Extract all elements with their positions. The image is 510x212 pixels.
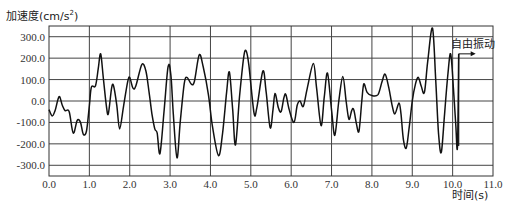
x-tick-label: 2.0 [123, 178, 137, 190]
x-tick-label: 4.0 [204, 178, 218, 190]
y-tick-label: 300.0 [20, 31, 45, 43]
y-axis-ticks: 300.0200.0100.00.0-100.0-200.0-300.0 [17, 31, 46, 172]
y-tick-label: -300.0 [17, 159, 46, 171]
x-tick-label: 1.0 [82, 178, 96, 190]
x-tick-label: 7.0 [325, 178, 339, 190]
x-tick-label: 3.0 [163, 178, 177, 190]
x-tick-label: 0.0 [42, 178, 56, 190]
x-axis-title: 时间(s) [452, 189, 488, 202]
x-tick-label: 5.0 [244, 178, 258, 190]
y-axis-title-main: 加速度(cm/s [6, 9, 70, 23]
y-tick-label: -100.0 [17, 116, 46, 128]
acceleration-series-line [49, 28, 459, 158]
y-tick-label: 200.0 [20, 52, 45, 64]
arrow-head-icon [471, 51, 476, 56]
y-tick-label: -200.0 [17, 138, 46, 150]
y-tick-label: 0.0 [31, 95, 45, 107]
y-axis-title-close: ) [74, 10, 78, 23]
free-vibration-annotation: 自由振动 [451, 37, 495, 51]
x-axis-ticks: 0.01.02.03.04.05.06.07.08.09.010.011.0 [42, 178, 503, 190]
x-tick-label: 8.0 [365, 178, 379, 190]
y-tick-label: 100.0 [20, 74, 45, 86]
x-tick-label: 9.0 [405, 178, 419, 190]
x-tick-label: 6.0 [284, 178, 298, 190]
y-axis-title: 加速度(cm/s2) [6, 9, 78, 23]
acceleration-chart: 0.01.02.03.04.05.06.07.08.09.010.011.0 3… [0, 0, 510, 212]
